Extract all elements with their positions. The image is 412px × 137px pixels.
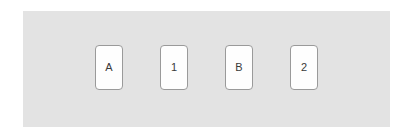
card-b-label: B	[235, 62, 242, 73]
card-a[interactable]: A	[95, 45, 123, 90]
card-2[interactable]: 2	[290, 45, 318, 90]
card-a-label: A	[105, 62, 112, 73]
card-2-label: 2	[301, 62, 307, 73]
card-row: A 1 B 2	[95, 44, 318, 90]
card-panel: A 1 B 2	[23, 11, 390, 127]
card-b[interactable]: B	[225, 45, 253, 90]
screenshot-root: A 1 B 2	[0, 0, 412, 137]
card-1[interactable]: 1	[160, 45, 188, 90]
card-1-label: 1	[171, 62, 177, 73]
